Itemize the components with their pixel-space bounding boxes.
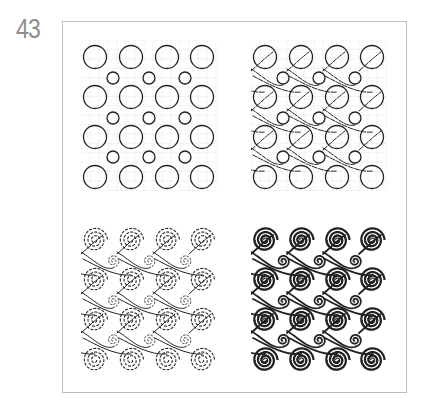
large-spiral-inner — [291, 232, 310, 249]
small-spiral — [351, 256, 361, 268]
large-spiral — [120, 348, 143, 369]
s-curve — [117, 235, 175, 275]
large-spiral-inner — [255, 232, 274, 249]
large-circle — [290, 166, 313, 189]
large-spiral — [120, 268, 143, 289]
large-circle — [326, 46, 349, 69]
large-circle — [191, 166, 214, 189]
large-spiral — [191, 308, 214, 329]
large-circle — [254, 166, 277, 189]
large-circle — [361, 166, 384, 189]
large-circle — [156, 46, 179, 69]
small-spiral — [181, 335, 191, 347]
large-spiral — [84, 268, 107, 289]
large-spiral-inner — [362, 232, 381, 249]
large-circle — [290, 46, 313, 69]
large-spiral — [84, 228, 107, 249]
large-circle — [361, 46, 384, 69]
large-circle — [84, 126, 107, 149]
large-circle — [191, 126, 214, 149]
large-circle — [361, 86, 384, 109]
large-spiral — [84, 348, 107, 369]
large-circle — [84, 166, 107, 189]
large-spiral — [191, 228, 214, 249]
s-curve — [45, 235, 103, 275]
panel-s-curves — [215, 40, 387, 191]
large-circle — [361, 126, 384, 149]
small-spiral — [181, 296, 191, 308]
small-spiral — [279, 335, 289, 347]
panel-circle-layout — [81, 40, 217, 191]
s-curve — [153, 275, 211, 315]
large-spiral — [156, 228, 179, 249]
small-spiral — [109, 256, 119, 268]
large-circle — [156, 86, 179, 109]
small-spiral — [279, 296, 289, 308]
s-curve — [215, 52, 273, 92]
large-spiral — [156, 348, 179, 369]
small-spiral — [315, 296, 325, 308]
large-circle — [191, 86, 214, 109]
large-spiral — [120, 228, 143, 249]
large-circle — [156, 166, 179, 189]
s-curve — [153, 235, 211, 275]
large-spiral — [156, 268, 179, 289]
large-circle — [120, 86, 143, 109]
large-spiral — [191, 348, 214, 369]
large-spiral — [84, 308, 107, 329]
large-spiral-inner — [327, 232, 346, 249]
large-circle — [326, 86, 349, 109]
large-circle — [120, 46, 143, 69]
large-circle — [326, 166, 349, 189]
s-curve — [81, 275, 139, 315]
small-spiral — [181, 256, 191, 268]
large-circle — [254, 46, 277, 69]
small-spiral — [145, 335, 155, 347]
small-spiral — [351, 335, 361, 347]
large-spiral — [191, 268, 214, 289]
large-circle — [120, 166, 143, 189]
large-circle — [290, 86, 313, 109]
small-spiral — [315, 256, 325, 268]
panel-bold-spirals — [215, 228, 385, 369]
large-circle — [191, 46, 214, 69]
panel-dashed-spirals — [45, 228, 215, 369]
large-circle — [84, 46, 107, 69]
small-spiral — [109, 296, 119, 308]
large-circle — [120, 126, 143, 149]
pattern-panels — [0, 0, 426, 408]
small-spiral — [315, 335, 325, 347]
s-curve — [81, 235, 139, 275]
s-curve — [45, 275, 103, 315]
large-spiral — [120, 308, 143, 329]
small-spiral — [351, 296, 361, 308]
s-curve — [215, 92, 273, 132]
small-spiral — [109, 335, 119, 347]
large-spiral — [156, 308, 179, 329]
large-circle — [254, 86, 277, 109]
s-curve — [117, 275, 175, 315]
small-spiral — [145, 296, 155, 308]
large-circle — [84, 86, 107, 109]
small-spiral — [279, 256, 289, 268]
small-spiral — [145, 256, 155, 268]
large-circle — [156, 126, 179, 149]
